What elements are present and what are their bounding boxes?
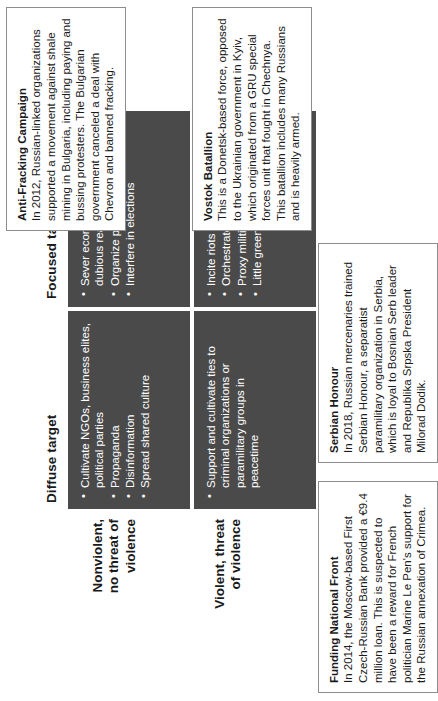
callout-title: Anti-Fracking Campaign <box>15 17 29 221</box>
row-header-nonviolent: Nonviolent, no threat of violence <box>90 519 139 639</box>
callout-body: This is a Donetsk-based force, opposed t… <box>215 17 303 221</box>
callout-funding-national-front: Funding National Front In 2014, the Mosc… <box>318 481 438 693</box>
callout-serbian-honour: Serbian Honour In 2018, Russian mercenar… <box>318 243 438 463</box>
row-header-nonviolent-line2: no threat of <box>106 519 122 639</box>
row-header-violent-line1: Violent, threat <box>212 519 228 639</box>
list-item: Propaganda <box>108 323 122 488</box>
list-item: Spread shared culture <box>138 323 152 488</box>
callout-anti-fracking-campaign: Anti-Fracking Campaign In 2012, Russian-… <box>6 7 126 231</box>
callout-body: In 2014, the Moscow-based First Czech-Ru… <box>341 491 429 683</box>
column-header-diffuse-target: Diffuse target <box>44 415 59 503</box>
callout-vostok-batallion: Vostok Batallion This is a Donetsk-based… <box>192 7 312 231</box>
callout-title: Vostok Batallion <box>201 17 215 221</box>
list-item: Disinformation <box>123 323 137 488</box>
row-header-nonviolent-line3: violence <box>123 519 139 639</box>
cell-nonviolent-diffuse: Cultivate NGOs, business elites, politic… <box>68 311 190 509</box>
callout-body: In 2012, Russian-linked organizations su… <box>29 17 117 221</box>
cell-violent-diffuse: Support and cultivate ties to criminal o… <box>194 311 316 509</box>
callout-body: In 2018, Russian mercenaries trained Ser… <box>341 253 429 453</box>
row-header-violent: Violent, threat of violence <box>212 519 245 639</box>
list-item: Cultivate NGOs, business elites, politic… <box>78 323 107 488</box>
row-header-violent-line2: of violence <box>228 519 244 639</box>
callout-title: Serbian Honour <box>327 253 341 453</box>
row-header-nonviolent-line1: Nonviolent, <box>90 519 106 639</box>
cell-violent-diffuse-list: Support and cultivate ties to criminal o… <box>204 323 261 499</box>
callout-title: Funding National Front <box>327 491 341 683</box>
list-item: Support and cultivate ties to criminal o… <box>204 323 261 488</box>
cell-nonviolent-diffuse-list: Cultivate NGOs, business elites, politic… <box>78 323 152 499</box>
